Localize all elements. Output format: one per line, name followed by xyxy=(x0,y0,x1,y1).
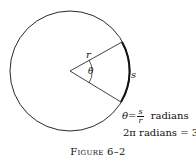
formula-full-circle: 2π radians = 360° xyxy=(123,128,196,138)
formula-theta: θ=sr radians xyxy=(122,108,189,125)
formula-theta-unit: radians xyxy=(151,110,189,121)
angle-label: θ xyxy=(88,67,93,76)
figure-caption: Figure 6–2 xyxy=(0,146,196,157)
fraction-denominator: r xyxy=(137,117,143,125)
arc-s xyxy=(121,42,130,102)
arc-label: s xyxy=(131,70,136,80)
radius-line-lower xyxy=(70,71,121,102)
fraction: sr xyxy=(137,108,143,125)
formula-theta-eq: = xyxy=(128,110,136,121)
radius-line-upper xyxy=(70,42,122,71)
radius-label: r xyxy=(86,50,91,60)
